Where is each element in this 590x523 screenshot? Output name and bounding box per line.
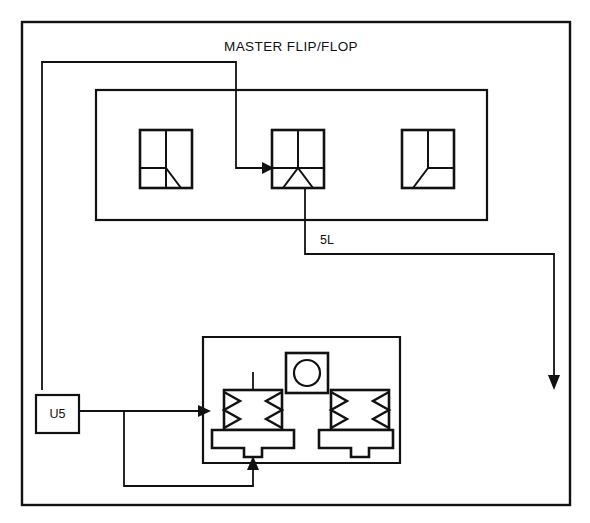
center-logic-element (272, 130, 324, 188)
output-port-arrowhead-icon (548, 375, 560, 390)
right-spring-valve (319, 390, 393, 457)
center-element-to-output-line (305, 188, 554, 375)
schematic-canvas: MASTER FLIP/FLOP (0, 0, 590, 523)
module-u5: U5 (36, 395, 79, 433)
schematic-diagram: MASTER FLIP/FLOP (0, 0, 590, 523)
module-u5-label: U5 (50, 407, 66, 421)
right-logic-element (402, 130, 454, 188)
circular-indicator (286, 353, 328, 393)
line-5l-label: 5L (320, 233, 334, 247)
right-spring-valve-port-flange (319, 430, 393, 457)
feedback-to-center-element-line (42, 62, 262, 390)
left-spring-valve-port-flange (212, 430, 294, 457)
u5-to-left-valve-arrowhead-icon (198, 405, 211, 417)
left-spring-valve (212, 372, 294, 457)
circular-indicator-circle-icon (294, 360, 320, 386)
page-title: MASTER FLIP/FLOP (224, 39, 358, 54)
left-logic-element (140, 130, 192, 188)
